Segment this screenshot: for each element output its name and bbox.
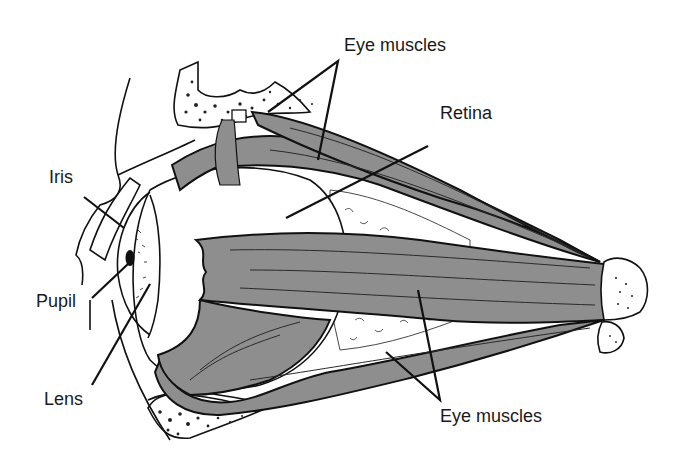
leader-pupil xyxy=(92,264,128,298)
label-pupil: Pupil xyxy=(36,292,76,310)
label-eye-muscles-top: Eye muscles xyxy=(344,36,446,54)
oblique-tendon xyxy=(215,120,240,185)
optic-nerve xyxy=(601,258,648,320)
optic-nerve-lower xyxy=(598,322,624,353)
label-iris: Iris xyxy=(49,168,73,186)
label-eye-muscles-bottom: Eye muscles xyxy=(440,407,542,425)
label-lens: Lens xyxy=(44,390,83,408)
eyelid-skin xyxy=(90,178,140,260)
eye-anatomy-diagram xyxy=(0,0,684,474)
label-retina: Retina xyxy=(440,104,492,122)
